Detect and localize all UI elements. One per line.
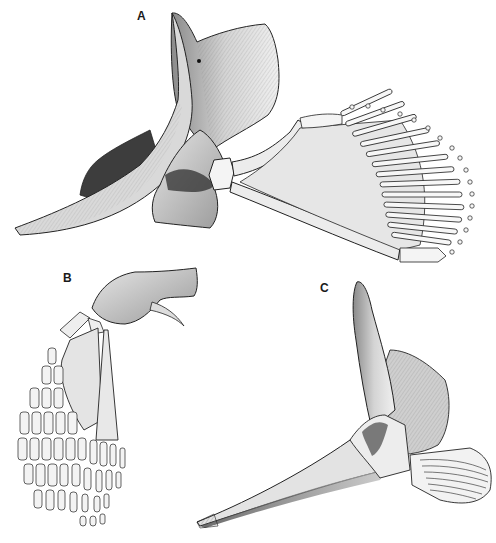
panel-label-c: C (320, 281, 329, 295)
anatomical-figure: A B C (0, 0, 496, 543)
figure-drawings (0, 0, 496, 543)
panel-b-drawing (18, 268, 197, 526)
panel-c-drawing (197, 282, 491, 528)
panel-label-b: B (63, 271, 72, 285)
panel-label-a: A (137, 9, 146, 23)
panel-a-drawing (15, 13, 474, 262)
